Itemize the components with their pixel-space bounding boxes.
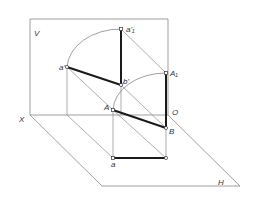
v-plane-outline — [30, 19, 168, 115]
label-b-prime: b' — [123, 77, 129, 86]
point-b — [164, 156, 167, 159]
segment-a-prime-b-prime — [67, 67, 121, 85]
label-origin: O — [172, 108, 178, 117]
diag-A-a — [113, 110, 166, 158]
segment-A-B — [113, 110, 166, 128]
label-B: B — [169, 127, 175, 136]
projection-diagram: V H X O a'₁ a' b' A₁ A B a — [0, 0, 258, 197]
diag-b-prime-B — [121, 85, 166, 128]
label-a: a — [111, 160, 116, 169]
label-x-axis: X — [18, 115, 25, 124]
point-a-prime — [65, 65, 68, 68]
diag-a1-A1 — [121, 29, 166, 73]
point-a1-prime — [120, 28, 123, 31]
diag-x-a — [67, 115, 113, 158]
label-A: A — [103, 103, 109, 112]
arc-a-prime — [67, 29, 121, 67]
point-A — [112, 109, 115, 112]
point-A1 — [165, 72, 168, 75]
point-B — [164, 126, 167, 129]
label-a1-prime: a'₁ — [126, 25, 135, 34]
label-A1: A₁ — [169, 69, 178, 78]
label-v-plane: V — [34, 29, 40, 38]
label-a-prime: a' — [59, 63, 65, 72]
h-plane-outline — [30, 115, 240, 186]
label-h-plane: H — [218, 178, 224, 187]
